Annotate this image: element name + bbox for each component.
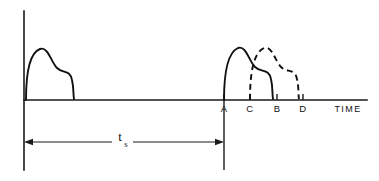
diagram-canvas: A C B D TIME t s (0, 0, 379, 181)
pulse-c-d-waveform (250, 48, 299, 100)
timing-diagram-figure: A C B D TIME t s (0, 0, 379, 181)
ts-arrow-head-left (24, 139, 33, 145)
pulse-a-b-waveform (224, 48, 273, 100)
tick-label-d: D (299, 103, 306, 114)
time-axis-label: TIME (334, 104, 361, 114)
tick-label-b: B (274, 103, 281, 114)
ts-symbol: t (118, 129, 122, 144)
initial-pulse-waveform (26, 49, 74, 100)
ts-arrow-head-right (215, 139, 224, 145)
tick-label-a: A (221, 103, 228, 114)
ts-subscript: s (124, 139, 127, 149)
tick-label-c: C (246, 103, 253, 114)
